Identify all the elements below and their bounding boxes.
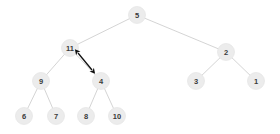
tree-node[interactable]: 11: [62, 40, 79, 57]
tree-edge: [75, 53, 96, 75]
node-circle[interactable]: [48, 108, 65, 125]
tree-edge: [231, 57, 250, 76]
tree-node[interactable]: 4: [93, 73, 110, 90]
tree-node[interactable]: 10: [109, 108, 126, 125]
node-circle[interactable]: [248, 73, 265, 90]
tree-edges: [27, 18, 250, 109]
tree-nodes: 5112943167810: [16, 7, 265, 125]
node-circle[interactable]: [129, 7, 146, 24]
tree-edge: [44, 88, 53, 109]
swap-double-arrow: [78, 53, 92, 70]
tree-node[interactable]: 3: [188, 73, 205, 90]
node-circle[interactable]: [62, 40, 79, 57]
tree-node[interactable]: 6: [16, 108, 33, 125]
tree-edge: [89, 88, 98, 109]
tree-node[interactable]: 5: [129, 7, 146, 24]
tree-edge: [27, 88, 37, 110]
tree-node[interactable]: 7: [48, 108, 65, 125]
binary-tree-diagram: 5112943167810: [0, 0, 280, 134]
node-circle[interactable]: [93, 73, 110, 90]
tree-node[interactable]: 9: [33, 73, 50, 90]
tree-edge: [104, 88, 114, 109]
tree-edge: [144, 18, 219, 49]
tree-node[interactable]: 2: [218, 44, 235, 61]
tree-edge: [201, 57, 220, 76]
node-circle[interactable]: [109, 108, 126, 125]
node-circle[interactable]: [78, 108, 95, 125]
tree-canvas: 5112943167810: [0, 0, 280, 134]
node-circle[interactable]: [218, 44, 235, 61]
tree-node[interactable]: 1: [248, 73, 265, 90]
node-circle[interactable]: [16, 108, 33, 125]
node-circle[interactable]: [33, 73, 50, 90]
tree-node[interactable]: 8: [78, 108, 95, 125]
tree-edge: [46, 54, 65, 76]
node-circle[interactable]: [188, 73, 205, 90]
tree-edge: [77, 18, 131, 44]
tree-annotations: [78, 53, 92, 70]
